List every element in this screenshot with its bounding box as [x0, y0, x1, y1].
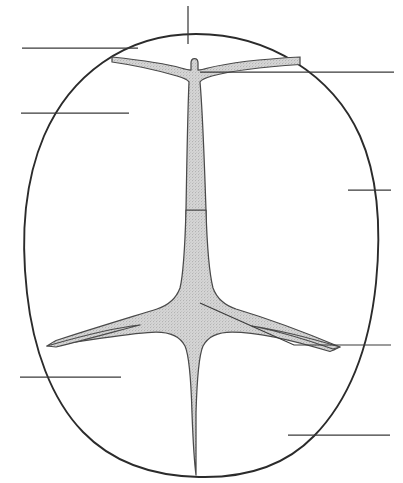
cross-section-diagram: [0, 0, 403, 483]
internal-structure-group: [47, 57, 340, 475]
diagram-canvas: [0, 0, 403, 483]
